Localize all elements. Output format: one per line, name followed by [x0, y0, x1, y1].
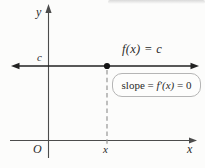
origin-label: O	[33, 143, 42, 155]
x-axis-label: x	[187, 143, 192, 155]
constant-function-diagram: y c f(x) = c O x x slope = f′(x) = 0	[0, 0, 205, 168]
slope-callout-box: slope = f′(x) = 0	[112, 73, 201, 97]
slope-callout-prefix: slope =	[122, 79, 157, 91]
slope-callout-derivative: f′(x)	[157, 79, 175, 91]
x-point-label: x	[103, 144, 108, 155]
y-axis-label: y	[36, 6, 41, 18]
constant-c-label: c	[37, 52, 42, 63]
function-equation-label: f(x) = c	[122, 43, 162, 56]
y-axis-arrow-icon	[45, 4, 51, 13]
function-line-right-arrow-icon	[191, 63, 200, 70]
function-line-left-arrow-icon	[11, 63, 20, 70]
slope-callout-suffix: = 0	[174, 79, 191, 91]
point-marker	[104, 63, 110, 69]
